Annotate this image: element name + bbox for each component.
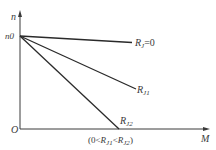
annotation-r2-sub: J2 xyxy=(123,139,130,147)
y-axis-arrow-icon xyxy=(18,10,22,17)
line-rj2 xyxy=(20,36,119,129)
label-rj2: RJ2 xyxy=(120,116,133,129)
label-rj0-suffix: =0 xyxy=(144,37,155,48)
label-rj1: RJ1 xyxy=(137,85,150,98)
label-rj2-sub: J2 xyxy=(126,120,133,128)
annotation-open: (0< xyxy=(88,135,101,145)
origin-label: O xyxy=(11,125,18,135)
x-axis-label: M xyxy=(201,134,209,144)
annotation-close: ) xyxy=(130,135,133,145)
y-axis-label: n xyxy=(11,12,16,22)
n0-text: n0 xyxy=(5,31,14,41)
label-rj1-sub: J1 xyxy=(143,89,150,97)
n0-label: n0 xyxy=(5,31,14,41)
annotation-r1-sub: J1 xyxy=(106,139,113,147)
x-axis-arrow-icon xyxy=(203,127,210,131)
condition-annotation: (0<RJ1<RJ2) xyxy=(88,135,133,148)
line-rj1 xyxy=(20,36,136,89)
line-rj0 xyxy=(20,36,132,43)
chart-canvas xyxy=(0,0,216,150)
label-rj0: RJ=0 xyxy=(135,38,155,51)
